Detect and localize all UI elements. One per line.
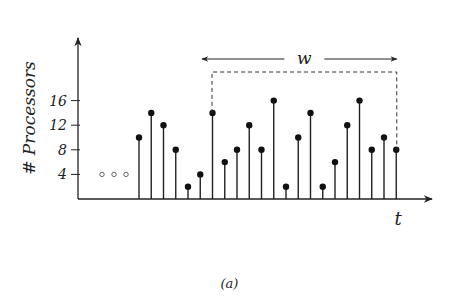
stem <box>332 159 338 199</box>
stem <box>258 147 264 199</box>
stem <box>356 97 362 199</box>
stem <box>307 110 313 199</box>
y-tick: 8 <box>58 142 80 158</box>
svg-text:4: 4 <box>57 166 67 182</box>
x-axis-label: t <box>394 208 402 229</box>
stem-chart: 481216 # Processors t w <box>0 0 459 308</box>
y-ticks: 481216 <box>49 93 80 183</box>
svg-text:8: 8 <box>58 142 67 158</box>
window-box <box>212 72 397 150</box>
stem <box>209 110 215 199</box>
ellipsis-dot <box>124 172 128 176</box>
stem <box>381 134 387 199</box>
svg-text:12: 12 <box>49 117 67 133</box>
stem <box>246 122 252 199</box>
stem <box>173 147 179 199</box>
y-axis-label: # Processors <box>19 61 39 175</box>
window-label: w <box>297 48 312 68</box>
y-tick: 12 <box>49 117 80 133</box>
stem <box>136 134 142 199</box>
y-tick: 4 <box>57 166 80 182</box>
stem <box>185 184 191 200</box>
stem <box>197 171 203 199</box>
stem <box>283 184 289 200</box>
ellipsis-dot <box>100 172 104 176</box>
stem <box>234 147 240 199</box>
stem <box>369 147 375 199</box>
stem <box>393 147 399 199</box>
stem <box>148 110 154 199</box>
stem <box>271 97 277 199</box>
leading-ellipsis <box>100 172 128 176</box>
stem <box>344 122 350 199</box>
y-tick: 16 <box>49 93 80 109</box>
stem <box>295 134 301 199</box>
stem <box>320 184 326 200</box>
stem <box>160 122 166 199</box>
svg-text:16: 16 <box>49 93 67 109</box>
stem <box>222 159 228 199</box>
figure-caption: (a) <box>0 276 459 291</box>
ellipsis-dot <box>112 172 116 176</box>
stems <box>136 97 400 199</box>
